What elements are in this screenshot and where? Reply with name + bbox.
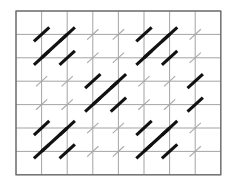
figure-root xyxy=(0,0,235,193)
lattice-diagram xyxy=(0,0,235,193)
figure-background xyxy=(0,0,235,193)
